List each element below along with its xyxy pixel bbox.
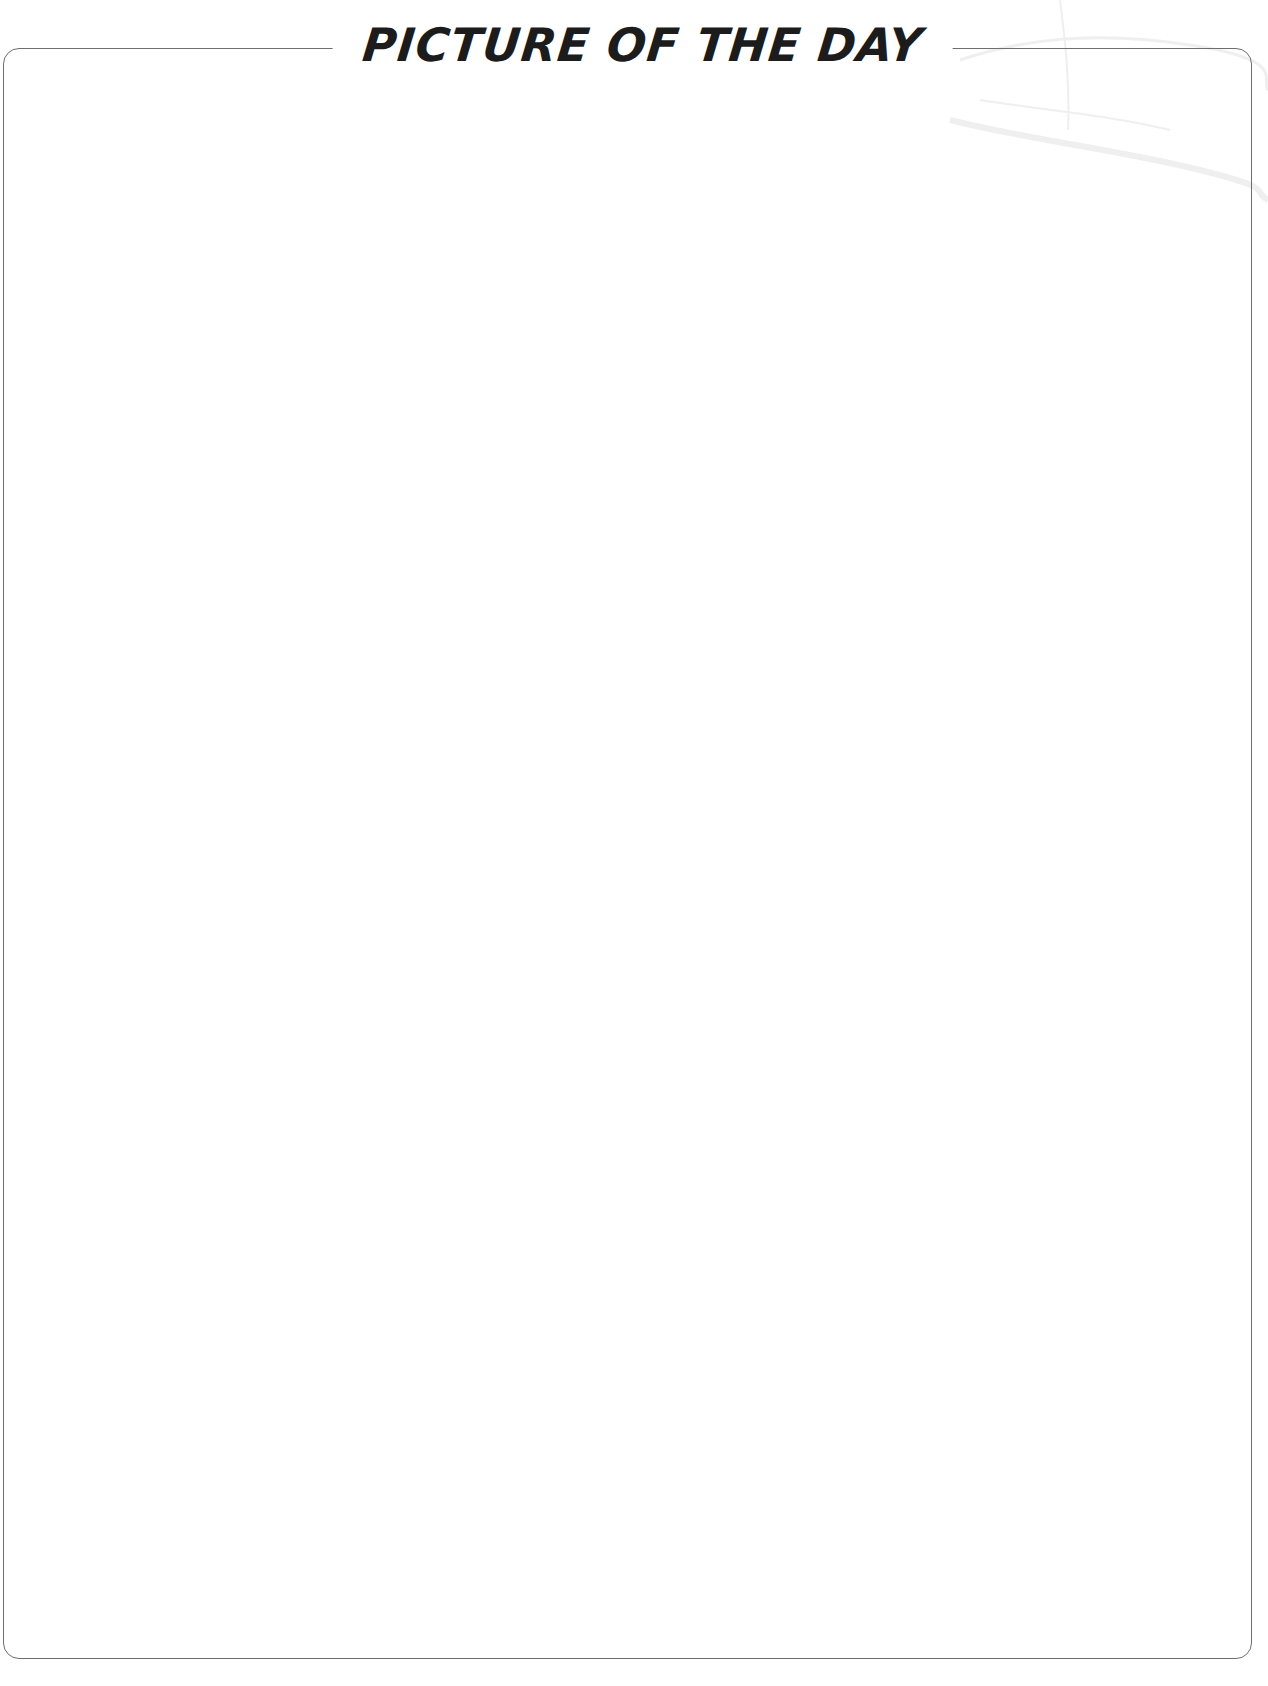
picture-frame xyxy=(3,48,1252,1659)
bottom-caption-clipped xyxy=(0,1668,1268,1686)
drawing-area[interactable] xyxy=(16,119,1246,1686)
